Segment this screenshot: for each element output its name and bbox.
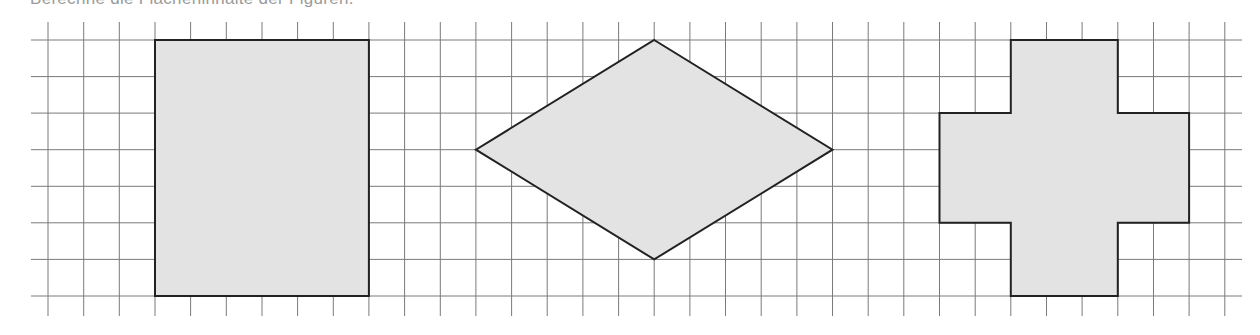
cross-fill bbox=[940, 40, 1190, 296]
rhombus-fill bbox=[476, 40, 833, 259]
grid-figure bbox=[0, 0, 1260, 335]
rectangle-fill bbox=[155, 40, 369, 296]
shapes-layer bbox=[155, 40, 1189, 296]
